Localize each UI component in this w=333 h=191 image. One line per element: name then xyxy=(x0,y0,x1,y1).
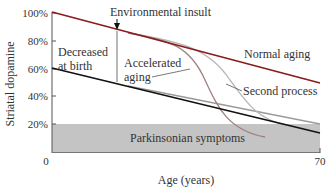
label-decreased-line1: Decreased xyxy=(58,45,108,59)
label-environmental-insult: Environmental insult xyxy=(110,5,212,19)
label-normal-aging: Normal aging xyxy=(244,47,310,61)
x-axis-title: Age (years) xyxy=(158,173,214,187)
y-axis-title: Striatal dopamine xyxy=(3,42,17,127)
accelerated-leader xyxy=(152,69,190,77)
dopamine-aging-chart: 100% 80% 60% 40% 20% 0 70 Striatal dopam… xyxy=(0,0,333,191)
y-tick-label-60: 60% xyxy=(28,63,48,75)
decreased-at-birth-line xyxy=(52,68,320,133)
label-parkinsonian: Parkinsonian symptoms xyxy=(130,131,245,145)
x-tick-label-70: 70 xyxy=(315,155,327,167)
y-tick-label-80: 80% xyxy=(28,35,48,47)
y-tick-label-100: 100% xyxy=(22,7,48,19)
y-tick-label-40: 40% xyxy=(28,90,48,102)
y-tick-label-20: 20% xyxy=(28,118,48,130)
x-tick-label-0: 0 xyxy=(43,155,49,167)
label-second-process: Second process xyxy=(243,84,318,98)
label-accelerated-line1: Accelerated xyxy=(124,56,181,70)
label-accelerated-line2: aging xyxy=(124,70,151,84)
label-decreased-line2: at birth xyxy=(58,59,92,73)
